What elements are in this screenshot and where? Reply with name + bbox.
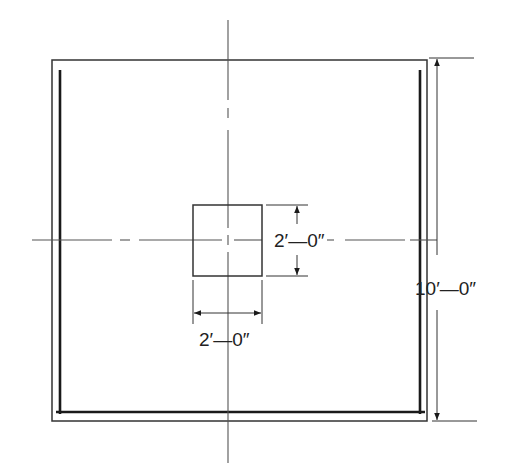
opening-height-label: 2′—0″: [274, 230, 325, 251]
overall-dimension-label: 10′—0″: [415, 278, 476, 299]
plan-drawing: 2′—0″ 2′—0″ 10′—0″: [0, 0, 505, 472]
opening-width-label: 2′—0″: [199, 329, 250, 350]
reinforcement-lines: [56, 70, 425, 414]
